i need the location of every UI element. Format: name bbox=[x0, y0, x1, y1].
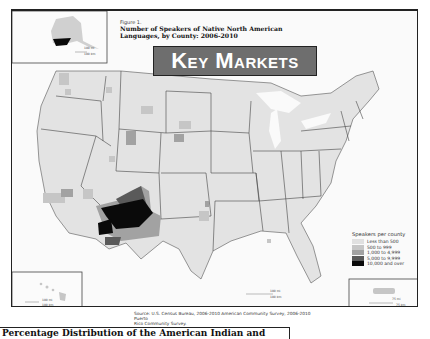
legend-item: 1,000 to 4,999 bbox=[352, 250, 405, 256]
legend-label: 10,000 and over bbox=[367, 261, 404, 266]
hawaii-scale-bottom: 100 km bbox=[42, 303, 53, 307]
pr-scale-top: 75 mi bbox=[392, 297, 401, 301]
legend-label: 500 to 999 bbox=[367, 245, 392, 250]
main-scale-top: 100 mi bbox=[270, 289, 280, 293]
puerto-rico-inset bbox=[349, 279, 418, 307]
alaska-scale-bottom: 100 km bbox=[84, 52, 95, 56]
us-land bbox=[37, 71, 379, 283]
banner-text: Key Markets bbox=[171, 48, 299, 74]
legend-swatch bbox=[352, 245, 364, 250]
legend-swatch bbox=[352, 261, 364, 266]
legend-label: 1,000 to 4,999 bbox=[367, 250, 400, 255]
figure-title-line2: Languages, by County: 2006-2010 bbox=[120, 32, 320, 39]
source-note: Source: U.S. Census Bureau, 2006-2010 Am… bbox=[134, 311, 324, 326]
legend-swatch bbox=[352, 239, 364, 244]
source-line2: Rico Community Survey. bbox=[134, 321, 324, 326]
key-markets-banner: Key Markets bbox=[153, 46, 317, 76]
legend: Speakers per county Less than 500 500 to… bbox=[352, 231, 405, 267]
pr-scale-bottom: 75 km bbox=[396, 303, 405, 307]
alaska-scale-top: 100 mi bbox=[84, 46, 94, 50]
bottom-section-heading: Percentage Distribution of the American … bbox=[0, 327, 290, 339]
legend-title: Speakers per county bbox=[352, 231, 405, 237]
legend-item: Less than 500 bbox=[352, 239, 405, 245]
legend-item: 5,000 to 9,999 bbox=[352, 256, 405, 262]
hawaii-scale-top: 100 mi bbox=[42, 298, 52, 302]
source-line1: Source: U.S. Census Bureau, 2006-2010 Am… bbox=[134, 311, 324, 321]
legend-swatch bbox=[352, 250, 364, 255]
legend-label: Less than 500 bbox=[367, 239, 399, 244]
figure-title: Number of Speakers of Native North Ameri… bbox=[120, 25, 320, 39]
legend-item: 10,000 and over bbox=[352, 261, 405, 267]
figure-title-line1: Number of Speakers of Native North Ameri… bbox=[120, 25, 320, 32]
main-scale-bottom: 100 km bbox=[270, 295, 281, 299]
legend-swatch bbox=[352, 256, 364, 261]
legend-label: 5,000 to 9,999 bbox=[367, 256, 400, 261]
